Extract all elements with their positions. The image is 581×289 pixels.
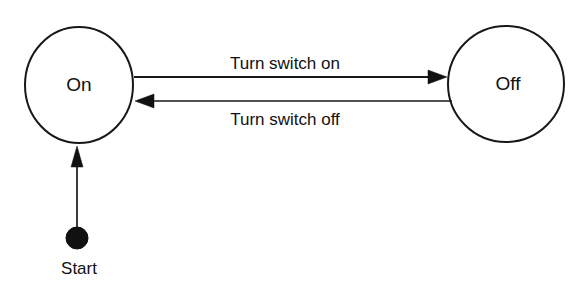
transition-on-to-off[interactable]: Turn switch on: [134, 54, 447, 84]
state-on-label: On: [66, 74, 91, 95]
state-node-off[interactable]: Off: [448, 26, 564, 142]
transition-off-to-on-label: Turn switch off: [230, 110, 340, 129]
arrowhead-right-icon: [428, 70, 447, 84]
start-node-dot-icon: [66, 227, 88, 249]
arrowhead-up-icon: [71, 146, 83, 167]
state-machine-diagram: On Off Turn switch on Turn switch off St…: [0, 0, 581, 289]
state-diagram-canvas: On Off Turn switch on Turn switch off St…: [0, 0, 581, 289]
start-node-label: Start: [61, 259, 97, 278]
arrowhead-left-icon: [135, 94, 154, 108]
state-off-label: Off: [496, 73, 522, 94]
transition-on-to-off-label: Turn switch on: [230, 54, 340, 73]
state-node-on[interactable]: On: [25, 27, 133, 143]
transition-off-to-on[interactable]: Turn switch off: [135, 94, 452, 129]
start-node[interactable]: Start: [61, 146, 97, 278]
